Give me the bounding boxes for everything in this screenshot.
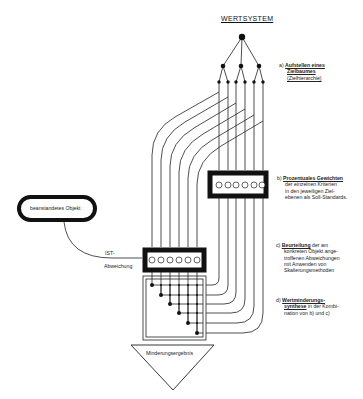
step-d-rest: in der Kombi- xyxy=(307,303,339,309)
leaf-to-deviation-lines xyxy=(152,92,263,247)
step-a-heading: Aufstellen eines xyxy=(285,62,325,68)
step-a: a) Aufstellen eines Zielbaumes (Zielhier… xyxy=(279,62,325,81)
abweichung-label: Abweichung xyxy=(104,263,132,269)
step-c-heading: Beurteilung xyxy=(282,242,311,248)
diagram-title: WERTSYSTEM xyxy=(221,15,273,22)
step-d: d) Wertminderungs- synthese in der Kombi… xyxy=(276,297,339,316)
step-b-text2: in den jeweiligen Ziel- xyxy=(285,188,335,194)
ist-label: IST- xyxy=(105,250,115,256)
step-c-letter: c) xyxy=(276,242,280,248)
step-d-heading: Wertminderungs- xyxy=(282,297,325,303)
step-a-heading2: Zielbaumes xyxy=(287,68,316,74)
step-d-text1: nation von b) und c) xyxy=(284,310,330,316)
step-d-letter: d) xyxy=(276,297,281,303)
step-b-text3: ebenen als Soll-Standards. xyxy=(285,194,347,200)
goal-tree xyxy=(219,37,263,82)
deviation-box xyxy=(145,250,204,270)
step-c-text3: mit Anwenden von xyxy=(284,261,326,267)
object-label: beanstandetes Objekt xyxy=(30,205,80,211)
step-c: c) Beurteilung der am konkreten Objekt a… xyxy=(276,242,340,273)
matrix-grid xyxy=(152,272,203,333)
result-label: Minderungsergebnis xyxy=(146,350,193,356)
step-b: b) Prozentuales Gewichten der einzelnen … xyxy=(277,175,347,200)
step-c-rest: der am xyxy=(311,242,329,248)
step-c-text1: konkreten Objekt ange- xyxy=(284,248,338,254)
step-a-letter: a) xyxy=(279,62,284,68)
matrix-dots xyxy=(150,283,199,335)
step-c-text2: troffenen Abweichungen xyxy=(284,255,340,261)
weighting-to-matrix-lines xyxy=(206,198,263,333)
step-c-text4: Skalierungsmethoden xyxy=(284,267,334,273)
step-d-heading2: synthese xyxy=(284,303,307,309)
weighting-box xyxy=(210,173,266,196)
object-connector xyxy=(64,222,142,258)
step-b-heading: Prozentuales Gewichten xyxy=(283,175,343,181)
step-a-text: (Zielhierarchie) xyxy=(287,75,322,81)
step-b-letter: b) xyxy=(277,175,282,181)
leaf-to-weighting-lines xyxy=(219,82,263,170)
step-b-text1: der einzelnen Kriterien xyxy=(285,181,337,187)
